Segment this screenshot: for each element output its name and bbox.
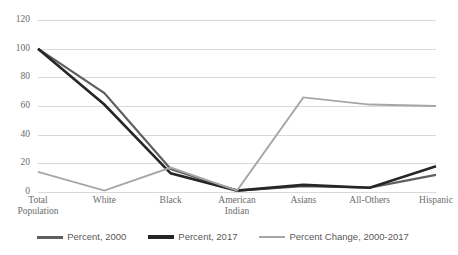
legend-label: Percent Change, 2000-2017 <box>289 232 408 242</box>
legend-item[interactable]: Percent Change, 2000-2017 <box>259 232 408 242</box>
y-axis-tick-label: 60 <box>21 101 31 111</box>
legend-item[interactable]: Percent, 2017 <box>148 232 237 242</box>
x-axis-tick-label: American Indian <box>202 195 272 217</box>
series-lines <box>38 20 436 192</box>
series-line-3 <box>38 97 436 190</box>
y-axis-tick-label: 80 <box>21 73 31 83</box>
x-axis-tick-label: All-Others <box>335 195 405 206</box>
legend-label: Percent, 2000 <box>67 232 126 242</box>
y-axis: 020406080100120 <box>0 20 34 192</box>
y-axis-tick-label: 20 <box>21 159 31 169</box>
legend-swatch-percent-change <box>259 236 285 239</box>
series-line-1 <box>38 49 436 191</box>
y-axis-tick-label: 40 <box>21 130 31 140</box>
y-axis-tick-label: 100 <box>16 44 30 54</box>
chart-legend: Percent, 2000Percent, 2017Percent Change… <box>0 228 446 246</box>
x-axis: Total PopulationWhiteBlackAmerican India… <box>38 195 436 229</box>
x-axis-tick-label: Black <box>136 195 206 206</box>
x-axis-tick-label: Asians <box>268 195 338 206</box>
y-axis-tick-label: 120 <box>16 15 30 25</box>
x-axis-tick-label: Hispanic <box>401 195 458 206</box>
legend-swatch-percent-2000 <box>37 236 63 239</box>
legend-label: Percent, 2017 <box>178 232 237 242</box>
x-axis-tick-label: White <box>69 195 139 206</box>
gridline-0 <box>38 192 436 193</box>
legend-item[interactable]: Percent, 2000 <box>37 232 126 242</box>
plot-area <box>38 20 436 192</box>
legend-swatch-percent-2017 <box>148 235 174 239</box>
x-axis-tick-label: Total Population <box>3 195 73 217</box>
series-line-2 <box>38 49 436 191</box>
